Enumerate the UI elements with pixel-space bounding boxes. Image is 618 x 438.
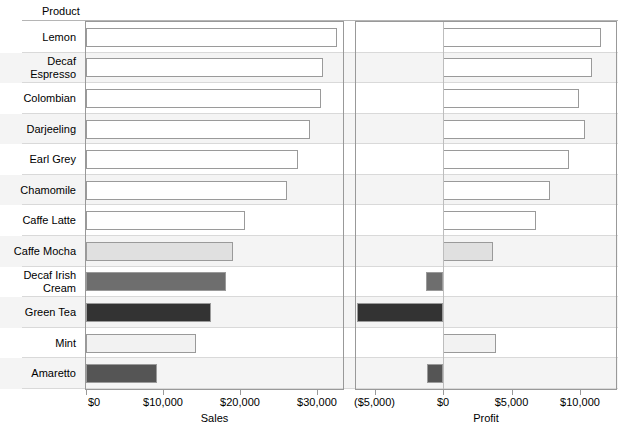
axis-tick xyxy=(86,390,87,395)
profit-bar[interactable] xyxy=(443,242,493,261)
axis-tick-label: $10,000 xyxy=(143,395,183,409)
category-label-amaretto[interactable]: Amaretto xyxy=(0,358,80,389)
axis-tick-label: ($5,000) xyxy=(354,395,395,409)
profit-bar[interactable] xyxy=(443,120,585,139)
axis-tick-label: $10,000 xyxy=(560,395,600,409)
profit-bar[interactable] xyxy=(443,181,550,200)
axis-tick-label: $30,000 xyxy=(297,395,337,409)
profit-bar[interactable] xyxy=(443,28,601,47)
sales-bar[interactable] xyxy=(86,58,323,77)
profit-bar[interactable] xyxy=(357,303,443,322)
profit-bar[interactable] xyxy=(443,58,592,77)
sales-bar[interactable] xyxy=(86,364,157,383)
profit-bar[interactable] xyxy=(426,272,443,291)
sales-bar[interactable] xyxy=(86,242,233,261)
category-label-chamomile[interactable]: Chamomile xyxy=(0,175,80,206)
category-label-decaf-espresso[interactable]: Decaf Espresso xyxy=(0,53,80,84)
axis-tick-label: $5,000 xyxy=(495,395,529,409)
profit-zero-reference-line xyxy=(443,21,444,390)
category-label-decaf-irish-cream[interactable]: Decaf Irish Cream xyxy=(0,267,80,298)
header-divider xyxy=(22,20,618,21)
category-label-green-tea[interactable]: Green Tea xyxy=(0,297,80,328)
category-label-colombian[interactable]: Colombian xyxy=(0,83,80,114)
profit-bar[interactable] xyxy=(443,150,569,169)
dual-bar-chart-visualization: Product LemonDecaf EspressoColombianDarj… xyxy=(0,0,618,438)
profit-axis: Profit ($5,000)$0$5,000$10,000 xyxy=(355,390,617,438)
profit-bar[interactable] xyxy=(443,334,496,353)
sales-bar[interactable] xyxy=(86,89,321,108)
sales-axis: Sales $0$10,000$20,000$30,000 xyxy=(85,390,344,438)
sales-bar[interactable] xyxy=(86,303,211,322)
profit-bar[interactable] xyxy=(443,211,536,230)
sales-bar[interactable] xyxy=(86,28,337,47)
profit-bar[interactable] xyxy=(427,364,443,383)
sales-bar[interactable] xyxy=(86,334,196,353)
category-label-lemon[interactable]: Lemon xyxy=(0,22,80,53)
category-label-earl-grey[interactable]: Earl Grey xyxy=(0,144,80,175)
profit-bar[interactable] xyxy=(443,89,579,108)
sales-bar[interactable] xyxy=(86,211,245,230)
category-label-darjeeling[interactable]: Darjeeling xyxy=(0,114,80,145)
profit-axis-title: Profit xyxy=(355,411,617,425)
sales-axis-title: Sales xyxy=(85,411,344,425)
axis-tick-label: $20,000 xyxy=(220,395,260,409)
category-label-mint[interactable]: Mint xyxy=(0,328,80,359)
axis-tick-label: $0 xyxy=(88,395,100,409)
axis-tick-label: $0 xyxy=(437,395,449,409)
sales-bar[interactable] xyxy=(86,181,287,200)
sales-bar[interactable] xyxy=(86,120,310,139)
row-dimension-header-label: Product xyxy=(0,4,86,18)
category-label-caffe-mocha[interactable]: Caffe Mocha xyxy=(0,236,80,267)
profit-plot-area xyxy=(356,22,616,389)
sales-plot-area xyxy=(86,22,343,389)
sales-bar[interactable] xyxy=(86,150,298,169)
sales-bar[interactable] xyxy=(86,272,226,291)
category-label-caffe-latte[interactable]: Caffe Latte xyxy=(0,205,80,236)
